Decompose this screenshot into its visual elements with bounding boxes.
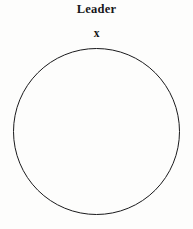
circle-canvas xyxy=(0,0,193,229)
leader-circle-figure: Leader x xyxy=(0,0,193,229)
circle-outline xyxy=(14,49,180,215)
